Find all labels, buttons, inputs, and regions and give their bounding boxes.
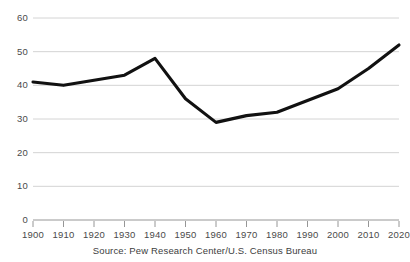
y-tick-label: 0 (2, 215, 28, 225)
source-caption: Source: Pew Research Center/U.S. Census … (0, 246, 410, 256)
y-tick-label: 30 (2, 114, 28, 124)
line-chart-figure: 0102030405060 19001910192019301940195019… (0, 0, 410, 262)
y-tick-label: 50 (2, 47, 28, 57)
y-tick-label: 10 (2, 181, 28, 191)
y-tick-label: 20 (2, 148, 28, 158)
y-tick-label: 60 (2, 13, 28, 23)
x-tick-label: 2020 (379, 230, 410, 240)
gridlines-group (33, 18, 399, 186)
x-tick-marks-group (33, 221, 399, 227)
chart-plot-area (0, 0, 410, 262)
data-series-line (33, 45, 399, 122)
y-tick-label: 40 (2, 80, 28, 90)
